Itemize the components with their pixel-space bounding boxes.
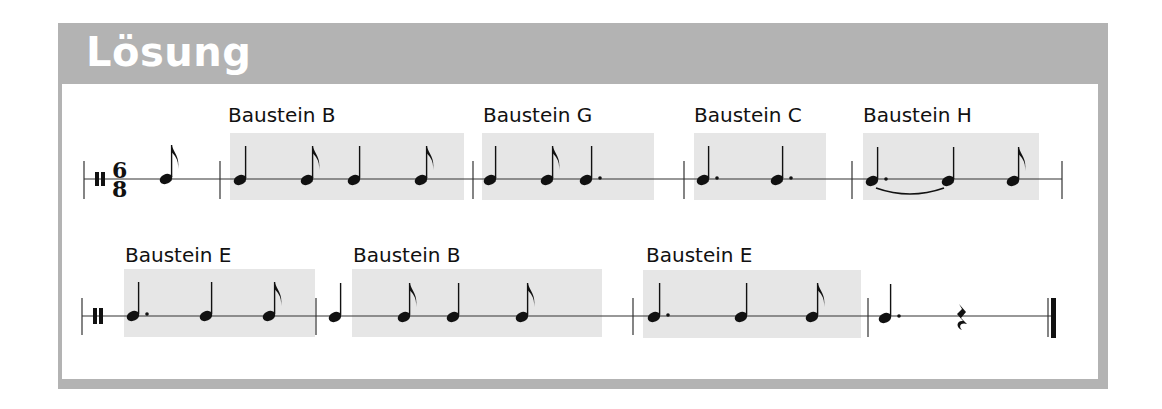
time-sig-den: 8	[112, 176, 127, 202]
block-shade	[694, 133, 826, 200]
final-barline	[1051, 298, 1056, 338]
block-shade	[482, 133, 654, 200]
block-shade	[352, 269, 602, 337]
block-shade	[124, 269, 315, 337]
block-shade	[230, 133, 464, 200]
block-shade	[643, 270, 861, 338]
block-shade	[863, 133, 1039, 200]
quarter-rest-icon	[957, 304, 967, 330]
notation: 6 8	[0, 0, 1162, 409]
